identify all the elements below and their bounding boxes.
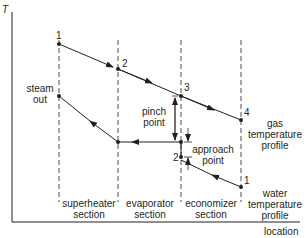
economizer-section-label: economizer section: [180, 198, 242, 220]
gas-point-3-label: 3: [184, 82, 190, 93]
evaporator-section-label: evaporator section: [119, 198, 181, 220]
gas-point-2-label: 2: [122, 58, 128, 69]
steam-out-label: steam out: [25, 83, 55, 105]
superheater-section-label: superheater section: [57, 198, 121, 220]
y-axis-label: T: [2, 4, 8, 15]
approach-point-label: approach point: [190, 144, 236, 166]
water-point-2-label: 2: [173, 152, 179, 163]
water-point-1-label: 1: [244, 175, 250, 186]
gas-temperature-profile-label: gas temperature profile: [245, 118, 305, 151]
gas-point-4-label: 4: [244, 107, 250, 118]
pinch-point-label: pinch point: [137, 106, 171, 128]
pinch-point-dimension: [172, 96, 178, 140]
x-axis-label: location: [264, 226, 298, 237]
water-temperature-profile-label: water temperature profile: [245, 188, 305, 221]
gas-point-1-label: 1: [56, 30, 62, 41]
